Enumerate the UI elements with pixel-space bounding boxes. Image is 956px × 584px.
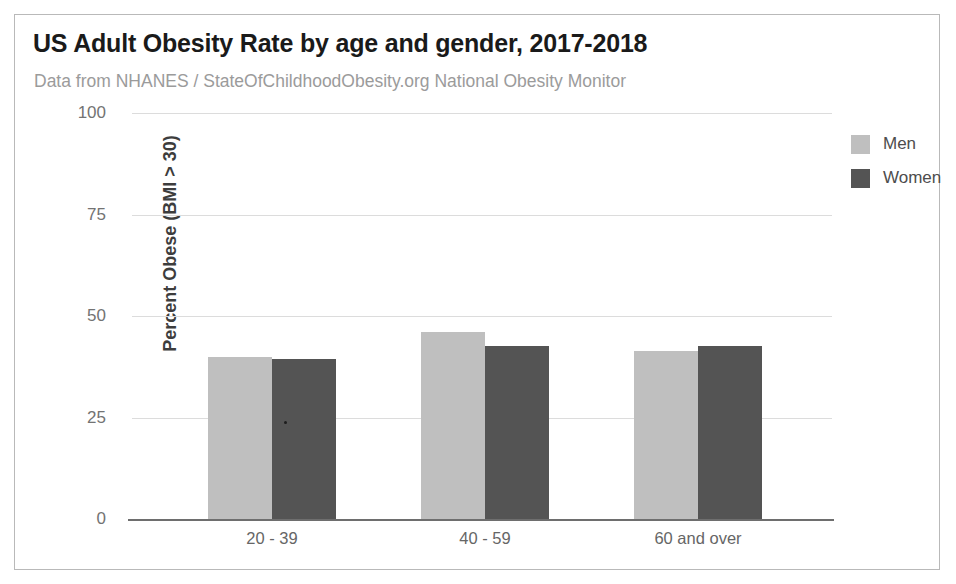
plot-area: Percent Obese (BMI > 30) 0255075100 20 -… <box>132 113 832 533</box>
legend-swatch-women <box>851 169 870 188</box>
legend-item-women[interactable]: Women <box>851 161 956 195</box>
chart-title: US Adult Obesity Rate by age and gender,… <box>33 29 647 58</box>
bar-men-1[interactable] <box>421 332 485 519</box>
chart-subtitle: Data from NHANES / StateOfChildhoodObesi… <box>34 71 626 92</box>
scan-artifact-speck <box>284 421 287 424</box>
x-axis-tick-label: 20 - 39 <box>172 529 372 548</box>
legend: MenWomen <box>851 127 956 195</box>
legend-item-men[interactable]: Men <box>851 127 956 161</box>
gridline <box>132 215 832 216</box>
chart-card: US Adult Obesity Rate by age and gender,… <box>14 14 940 570</box>
gridline <box>132 113 832 114</box>
y-axis-tick-label: 25 <box>0 409 106 426</box>
x-axis-tick-label: 60 and over <box>598 529 798 548</box>
y-axis-title: Percent Obese (BMI > 30) <box>160 114 181 374</box>
bar-women-2[interactable] <box>698 346 762 519</box>
x-axis-tick-label: 40 - 59 <box>385 529 585 548</box>
legend-label-women: Women <box>883 168 941 188</box>
legend-label-men: Men <box>883 134 916 154</box>
y-axis-tick-label: 75 <box>0 206 106 223</box>
bar-men-2[interactable] <box>634 351 698 519</box>
legend-swatch-men <box>851 135 870 154</box>
y-axis-tick-label: 0 <box>0 510 106 527</box>
x-axis-line <box>128 519 834 521</box>
bar-women-1[interactable] <box>485 346 549 519</box>
gridline <box>132 316 832 317</box>
y-axis-tick-label: 50 <box>0 307 106 324</box>
bar-men-0[interactable] <box>208 357 272 519</box>
bar-women-0[interactable] <box>272 359 336 519</box>
y-axis-tick-label: 100 <box>0 104 106 121</box>
